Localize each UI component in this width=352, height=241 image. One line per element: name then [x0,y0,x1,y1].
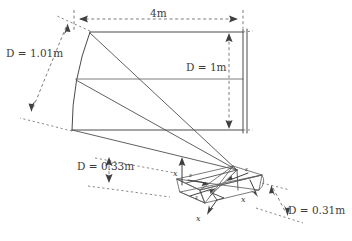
guide-line-sub-lower [88,186,170,197]
axis-label-sub-inner-lower: z [195,195,198,201]
guide-line-lower [20,118,72,131]
dimension-label-diameter-sub-right: D = 0.31m [288,205,345,216]
arrowhead-right [229,15,238,22]
guide-line-subr-upper [262,183,290,190]
dimension-label-width-top: 4m [150,8,167,19]
wall-tick-top [243,31,253,32]
dimension-line-subr [273,188,286,213]
arrowhead-top [225,33,232,42]
dimension-diameter-right [225,33,232,129]
axis-head-bottom-open [212,193,224,200]
axis-head-inner-upper [201,182,211,187]
axis-label-sub-top: x [173,170,178,178]
reflector-curved-edge [72,32,90,130]
axis-label-sub-bottom: x [196,215,201,223]
axis-label-sub-right-end: x [241,196,246,204]
dimension-label-diameter-left: D = 1.01m [6,48,63,59]
ray-from-mid-edge [76,80,237,170]
arrowhead-sub-bottom [105,174,112,183]
dimension-label-diameter-sub-left: D = 0.33m [77,161,134,172]
aperture-plane [243,29,253,133]
dimension-subreflector-right [256,183,303,223]
reflector-geometry-diagram: 4m D = 1.01m D = 1m D = 0.33m D = 0.31m … [0,0,352,241]
axis-label-sub-upper-right: z [245,167,248,173]
main-reflector [72,32,243,130]
dimension-label-diameter-right: D = 1m [186,62,227,73]
ray-from-top-edge [90,33,237,170]
axis-label-sub-inner-upper: z [189,173,192,179]
dimension-line-diagonal [33,27,66,108]
dimension-diameter-left [20,16,90,131]
brace-line-2 [180,175,262,192]
